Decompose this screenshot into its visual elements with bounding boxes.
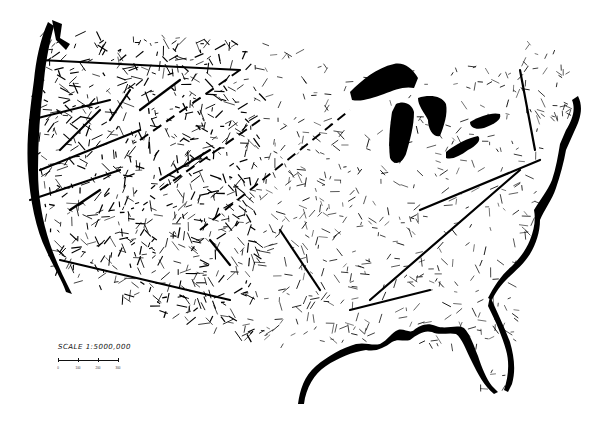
lake-huron: [418, 96, 447, 136]
lake-michigan: [389, 102, 414, 163]
lake-ontario: [470, 113, 500, 128]
lake-erie: [446, 136, 479, 159]
scale-tick: 100: [78, 358, 79, 362]
scale-tick: 300: [118, 358, 119, 362]
atlantic-coastline: [488, 96, 581, 300]
major-lineaments: [30, 60, 540, 310]
florida-coastline: [488, 296, 514, 392]
puget-sound: [52, 20, 70, 50]
minor-lineaments: [31, 30, 572, 392]
scale-tick: 0: [58, 358, 59, 362]
lake-superior: [350, 64, 418, 101]
scale-tick: 200: [98, 358, 99, 362]
gulf-coastline: [298, 324, 498, 404]
scale-bar: SCALE 1:5000,000 0 100 200 300: [58, 343, 131, 361]
scale-label: SCALE 1:5000,000: [58, 343, 131, 351]
scale-ruler: 0 100 200 300: [58, 354, 118, 361]
dashed-lineaments: [140, 70, 350, 230]
